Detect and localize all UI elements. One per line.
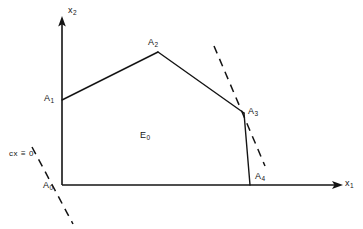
region-label-e0: E0 <box>140 131 150 140</box>
vertex-label-a3: A3 <box>248 107 258 116</box>
x-axis-label-subscript: 1 <box>350 182 354 189</box>
vertex-label-a0: A0 <box>43 181 53 190</box>
vertex-label-a1-subscript: 1 <box>51 97 55 104</box>
y-axis-label: x2 <box>68 6 77 15</box>
vertex-label-a3-subscript: 3 <box>255 110 259 117</box>
y-axis-label-subscript: 2 <box>73 9 77 16</box>
constraint-label-cx-equals-zero: cx ≡ 0 <box>9 150 34 158</box>
vertex-label-a1: A1 <box>44 94 54 103</box>
background-rect <box>0 0 363 229</box>
vertex-label-a4: A4 <box>255 172 265 181</box>
y-axis-label-text: x <box>68 5 73 15</box>
vertex-label-a0-subscript: 0 <box>50 184 54 191</box>
figure-drawing <box>0 0 363 229</box>
figure-canvas: x2 x1 A0 A1 A2 A3 A4 E0 cx ≡ 0 <box>0 0 363 229</box>
vertex-label-a2-text: A <box>148 37 154 47</box>
x-axis-label-text: x <box>345 178 350 188</box>
x-axis-label: x1 <box>345 179 354 188</box>
vertex-label-a4-subscript: 4 <box>262 175 266 182</box>
vertex-label-a2-subscript: 2 <box>155 41 159 48</box>
vertex-label-a1-text: A <box>44 93 50 103</box>
vertex-label-a2: A2 <box>148 38 158 47</box>
region-label-e0-text: E <box>140 130 146 140</box>
region-label-e0-subscript: 0 <box>147 134 151 141</box>
vertex-label-a0-text: A <box>43 180 49 190</box>
vertex-label-a4-text: A <box>255 171 261 181</box>
vertex-label-a3-text: A <box>248 106 254 116</box>
